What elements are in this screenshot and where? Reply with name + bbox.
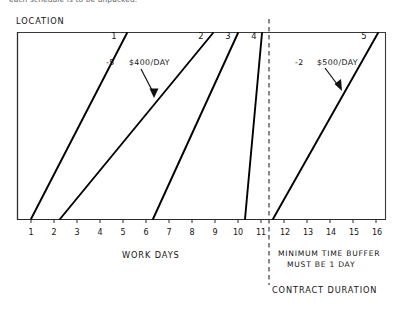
left-annotation-arrow: [141, 69, 159, 98]
x-tick-11: 11: [253, 228, 269, 237]
x-tick-1: 1: [23, 228, 39, 237]
left-slope-label: -5: [106, 58, 115, 67]
x-tick-13: 13: [300, 228, 316, 237]
x-tick-4: 4: [92, 228, 108, 237]
x-tick-12: 12: [277, 228, 293, 237]
x-tick-14: 14: [323, 228, 339, 237]
activity-line-4: [245, 33, 262, 219]
right-rate-label: $500/DAY: [317, 58, 358, 67]
x-tick-6: 6: [138, 228, 154, 237]
x-tick-5: 5: [115, 228, 131, 237]
activity-label-1: 1: [107, 31, 121, 41]
chart-page: each schedule is to be unpacked. LOCATIO…: [0, 0, 405, 309]
left-rate-label: $400/DAY: [129, 58, 170, 67]
activity-label-4: 4: [247, 31, 261, 41]
x-tick-3: 3: [69, 228, 85, 237]
x-tick-9: 9: [207, 228, 223, 237]
x-tick-2: 2: [46, 228, 62, 237]
right-annotation-arrow: [325, 68, 342, 91]
x-tick-7: 7: [161, 228, 177, 237]
x-tick-16: 16: [369, 228, 385, 237]
x-tick-8: 8: [184, 228, 200, 237]
activity-label-2: 2: [194, 31, 208, 41]
activity-label-3: 3: [221, 31, 235, 41]
activity-label-5: 5: [357, 31, 371, 41]
x-tick-10: 10: [230, 228, 246, 237]
right-slope-label: -2: [295, 58, 304, 67]
x-tick-15: 15: [346, 228, 362, 237]
chart-canvas: [0, 0, 405, 309]
